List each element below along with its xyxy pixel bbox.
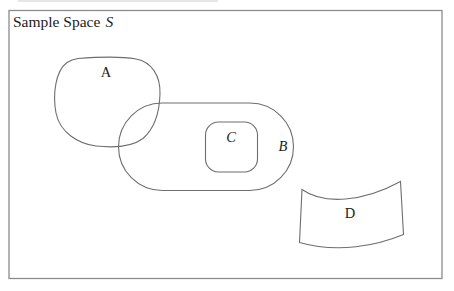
event-c-label: C xyxy=(226,129,236,145)
event-a-label: A xyxy=(101,64,112,80)
event-b-label: B xyxy=(279,138,288,154)
title-text: Sample Space xyxy=(13,13,100,30)
event-d-label: D xyxy=(345,205,355,221)
sample-space-diagram: Sample SpaceS A B C D xyxy=(0,0,454,291)
scan-artifact xyxy=(18,0,218,2)
sample-space-title: Sample SpaceS xyxy=(13,13,113,30)
figure-page: Sample SpaceS A B C D xyxy=(0,0,454,291)
sample-space-border xyxy=(9,11,442,279)
title-symbol: S xyxy=(105,13,113,30)
